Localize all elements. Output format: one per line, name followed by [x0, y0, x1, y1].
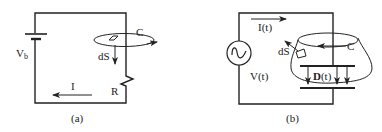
panel-a: Vb C dS R I (a) [16, 13, 157, 125]
contour-label-b: C [347, 40, 354, 52]
current-label-a: I [71, 80, 75, 92]
circuit-a-wire-top [35, 13, 126, 73]
current-label-b: I(t) [258, 21, 272, 34]
panel-b: V(t) I(t) C dS D(t) (b) [227, 13, 372, 125]
bag-surface-b [291, 38, 372, 83]
contour-label-a: C [136, 26, 143, 38]
figure-canvas: Vb C dS R I (a) V(t) I(t) [0, 0, 382, 132]
caption-a: (a) [71, 112, 84, 125]
field-label-b: D(t) [313, 70, 332, 83]
source-label-b: V(t) [250, 70, 269, 83]
resistor-label: R [111, 85, 119, 97]
surface-element-label-a: dS [98, 50, 110, 62]
battery-icon [25, 34, 47, 39]
ac-source-icon [227, 41, 251, 65]
surface-element-patch-a [109, 36, 118, 40]
contour-loop-a [94, 34, 154, 47]
circuit-b-wire-top [239, 13, 333, 66]
surface-element-label-b: dS [278, 45, 290, 57]
resistor-icon [121, 73, 133, 88]
battery-label: Vb [16, 47, 28, 61]
caption-b: (b) [286, 112, 299, 125]
